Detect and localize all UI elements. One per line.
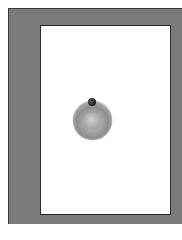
rotary-knob[interactable] <box>73 101 112 140</box>
knob-indicator-dot-icon <box>88 98 96 106</box>
knob-center-cap <box>84 113 101 130</box>
